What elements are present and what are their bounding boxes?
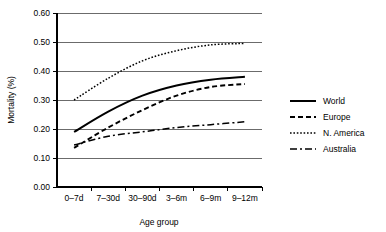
y-axis-title: Mortality (%) [6,76,16,124]
y-tick-label: 0.20 [33,124,50,134]
x-tick-label: 9–12m [232,193,258,203]
legend-label-world: World [323,96,345,106]
y-tick-label: 0.60 [33,8,50,18]
x-tick-label: 3–6m [166,193,187,203]
y-tick-label: 0.10 [33,153,50,163]
x-axis-title: Age group [139,217,178,227]
x-tick-label: 7–30d [96,193,120,203]
legend-label-australia: Australia [323,144,356,154]
x-tick-label: 30–90d [128,193,157,203]
y-tick-label: 0.30 [33,95,50,105]
x-tick-label: 6–9m [200,193,221,203]
y-tick-label: 0.40 [33,66,50,76]
legend-label-n-america: N. America [323,128,365,138]
chart-canvas: 0.000.100.200.300.400.500.60 0–7d7–30d30… [0,0,386,232]
y-tick-label: 0.00 [33,182,50,192]
y-tick-label: 0.50 [33,37,50,47]
x-tick-label: 0–7d [65,193,84,203]
legend-label-europe: Europe [323,112,351,122]
mortality-line-chart: 0.000.100.200.300.400.500.60 0–7d7–30d30… [0,0,386,232]
